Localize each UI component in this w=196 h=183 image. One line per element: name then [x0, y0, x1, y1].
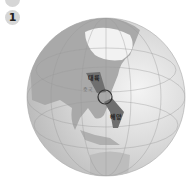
- globe-diagram: 대륙 해양 중국: [0, 0, 196, 183]
- label-continent: 대륙: [88, 74, 100, 82]
- label-ocean: 해양: [110, 113, 122, 121]
- label-country: 중국: [83, 86, 93, 93]
